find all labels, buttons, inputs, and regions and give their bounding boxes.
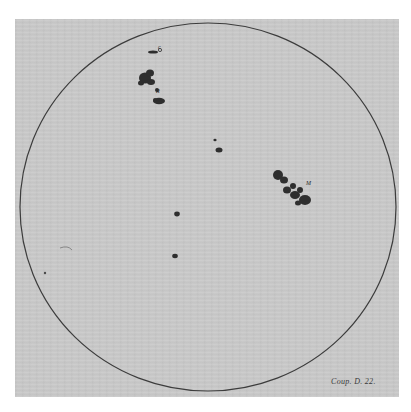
solar-disk-outline bbox=[20, 23, 396, 391]
spot-label-c: c bbox=[158, 44, 161, 50]
solar-disk-illustration bbox=[0, 0, 411, 412]
sunspot-center-pair bbox=[213, 139, 222, 153]
sunspot-small-2 bbox=[172, 254, 178, 258]
spot-label-m: M bbox=[306, 180, 311, 186]
engraver-signature: Coup. D. 22. bbox=[331, 377, 376, 386]
faint-mark bbox=[60, 247, 72, 250]
sunspot-small-1 bbox=[174, 212, 180, 217]
faint-dot bbox=[44, 272, 46, 274]
spot-label-r: R bbox=[156, 88, 160, 94]
sunspot-group-r bbox=[138, 70, 165, 105]
sunspot-group-m bbox=[273, 170, 311, 206]
